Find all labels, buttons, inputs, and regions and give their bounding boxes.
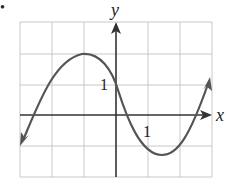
y-axis-label: y [109,0,119,20]
arrow-right-icon [203,77,212,91]
x-tick-label: 1 [143,123,151,140]
y-tick-label: 1 [100,76,108,93]
x-axis-label: x [215,105,224,125]
graph: • y x 1 1 [0,0,228,194]
axes [20,22,212,177]
bullet: • [0,0,5,15]
